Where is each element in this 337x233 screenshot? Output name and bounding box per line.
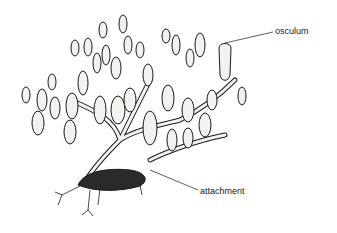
attachment-label: attachment [200,186,245,196]
osculum-label: osculum [275,26,309,36]
osculum-leader-line [225,32,273,43]
attachment-leader-line [150,170,198,190]
sponge-body [22,15,246,182]
attachment-base [55,169,145,216]
